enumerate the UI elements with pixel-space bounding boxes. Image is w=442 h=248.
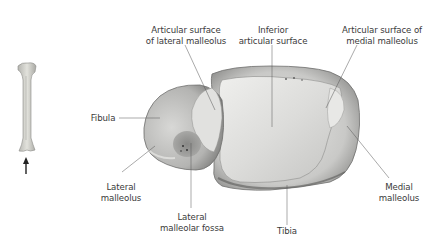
fibula-lateral-malleolus <box>144 85 224 170</box>
label-articular-surface-medial-malleolus: Articular surface of medial malleolus <box>330 25 434 46</box>
label-fibula: Fibula <box>88 113 118 124</box>
view-direction-arrow-icon <box>23 157 29 174</box>
label-articular-surface-lateral-malleolus: Articular surface of lateral malleolus <box>140 25 232 46</box>
label-tibia: Tibia <box>272 226 302 237</box>
label-medial-malleolus: Medial malleolus <box>372 182 426 203</box>
inset-tibia <box>18 63 36 152</box>
label-lateral-malleolus: Lateral malleolus <box>96 182 146 203</box>
label-lateral-malleolar-fossa: Lateral malleolar fossa <box>156 212 228 233</box>
leader-lateral-malleolus <box>122 146 155 172</box>
label-inferior-articular-surface: Inferior articular surface <box>230 25 316 46</box>
